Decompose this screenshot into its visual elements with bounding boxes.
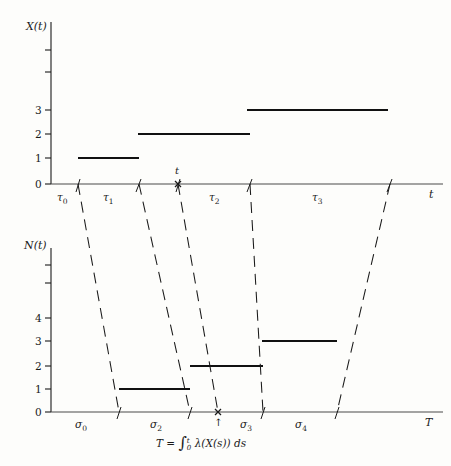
formula-lhs: T	[156, 437, 163, 449]
top-y-axis-label: X(t)	[26, 21, 47, 32]
bottom-ytick-label-3: 3	[35, 336, 42, 347]
sigma-3-sub: 3	[247, 424, 252, 433]
up-arrow-icon: ↑	[214, 418, 222, 428]
tau-0-sub: 0	[63, 197, 68, 206]
bottom-y-axis-label: N(t)	[24, 240, 47, 251]
bottom-ytick-label-1: 1	[35, 384, 42, 395]
connector-tau1	[139, 184, 190, 412]
top-current-time-label: t	[175, 166, 179, 176]
bottom-ytick-label-2: 2	[35, 361, 42, 372]
interval-label-sigma-3: σ3	[240, 419, 252, 433]
top-ytick-label-2: 2	[35, 129, 42, 140]
bottom-step-function	[119, 341, 337, 389]
top-x-axis-label: t	[429, 189, 433, 200]
top-axis-interval-ticks	[76, 179, 392, 192]
sigma-4-sub: 4	[302, 424, 307, 433]
top-ytick-label-0: 0	[35, 179, 42, 190]
formula-equals: =	[166, 437, 175, 449]
tau-3-sub: 3	[318, 197, 323, 206]
tau-1-sub: 1	[109, 197, 114, 206]
figure-container: X(t) 0 1 2 3 τ0 τ1 τ2 τ3 t t N(t) 0 1 2 …	[0, 0, 451, 466]
formula-integrand: λ(X(s))	[195, 437, 231, 449]
bottom-ytick-label-4: 4	[35, 313, 42, 324]
top-panel-axes	[45, 22, 443, 184]
interval-label-sigma-4: σ4	[295, 419, 307, 433]
interval-label-tau-2: τ2	[209, 192, 220, 206]
tau-2-sub: 2	[215, 197, 220, 206]
connector-t	[178, 184, 218, 412]
sigma-0-sub: 0	[82, 424, 87, 433]
interval-label-sigma-0: σ0	[75, 419, 87, 433]
top-ytick-label-3: 3	[35, 105, 42, 116]
time-change-formula: T = ∫ t 0 λ(X(s)) ds	[156, 435, 246, 452]
diagram-canvas	[0, 0, 451, 466]
integral-sign-icon: ∫	[179, 433, 187, 452]
top-ytick-label-1: 1	[35, 153, 42, 164]
interval-label-tau-3: τ3	[312, 192, 323, 206]
connector-tau3	[337, 184, 390, 412]
top-step-function	[78, 110, 388, 158]
bottom-x-axis-label: T	[425, 417, 432, 428]
connector-tau2	[250, 184, 263, 412]
interval-label-sigma-2: σ2	[150, 419, 162, 433]
interval-label-tau-1: τ1	[103, 192, 114, 206]
formula-lower-limit: 0	[187, 445, 191, 452]
sigma-2-sub: 2	[157, 424, 162, 433]
formula-differential: ds	[234, 437, 246, 449]
connector-tau0	[78, 184, 119, 412]
interval-label-tau-0: τ0	[57, 192, 68, 206]
bottom-ytick-label-0: 0	[35, 407, 42, 418]
time-change-connectors	[78, 184, 390, 412]
